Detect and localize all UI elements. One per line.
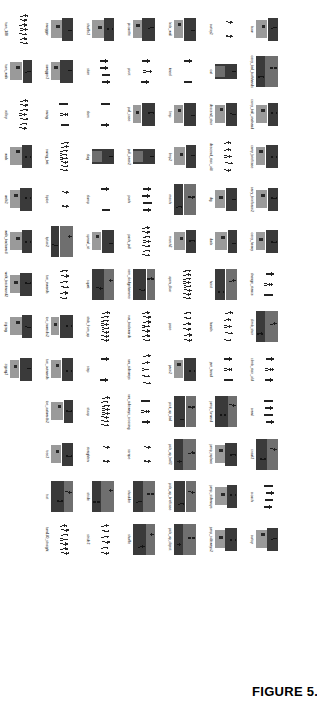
motion-cell[interactable]: swing xyxy=(44,93,85,136)
motion-cell[interactable]: volley xyxy=(3,93,44,136)
motion-cell[interactable]: duck xyxy=(208,221,249,264)
motion-cell[interactable]: curtsy xyxy=(249,518,290,561)
motion-cell[interactable]: crouch xyxy=(249,476,290,519)
motion-cell[interactable]: crawl xyxy=(249,391,290,434)
motion-cell[interactable]: slam xyxy=(85,93,126,136)
motion-cell[interactable]: dig xyxy=(208,178,249,221)
motion-cell[interactable]: tree2 xyxy=(44,433,85,476)
motion-cell[interactable]: zigzag2 xyxy=(3,348,44,391)
motion-cell[interactable]: carry_briefcase2 xyxy=(249,178,290,221)
motion-cell[interactable]: limp2 xyxy=(167,136,208,179)
motion-cell[interactable]: pick_up_briefcase xyxy=(167,476,208,519)
motion-cell[interactable]: hunch xyxy=(208,306,249,349)
motion-cell[interactable]: jump_sideways xyxy=(208,476,249,519)
motion-cell[interactable]: carry_heavy xyxy=(249,221,290,264)
motion-thumbnail-image xyxy=(51,438,75,471)
motion-thumbnail-image xyxy=(256,268,280,301)
motion-cell[interactable]: squat xyxy=(85,263,126,306)
motion-cell[interactable]: stride2 xyxy=(85,518,126,561)
motion-cell[interactable]: change_stance xyxy=(249,263,290,306)
motion-cell[interactable]: turn_walk xyxy=(3,51,44,94)
motion-cell[interactable]: hoist xyxy=(208,263,249,306)
motion-cell[interactable]: turn_180 xyxy=(3,8,44,51)
motion-cell[interactable]: push xyxy=(126,178,167,221)
motion-cell[interactable]: turn180_straight xyxy=(44,518,85,561)
motion-cell[interactable]: pivot xyxy=(126,51,167,94)
motion-cell[interactable]: tiptoe2 xyxy=(44,221,85,264)
motion-cell[interactable]: run_sideways xyxy=(126,348,167,391)
motion-cell[interactable]: pull_case2 xyxy=(126,136,167,179)
motion-cell[interactable]: descend_stair xyxy=(208,93,249,136)
motion-cell[interactable]: tiptoe xyxy=(44,178,85,221)
motion-cell[interactable]: limp xyxy=(167,93,208,136)
motion-cell[interactable]: straighten xyxy=(85,433,126,476)
motion-cell[interactable]: shuffle2 xyxy=(85,8,126,51)
motion-cell[interactable]: step xyxy=(85,348,126,391)
motion-cell[interactable]: climb_stair xyxy=(249,306,290,349)
motion-cell[interactable]: skim xyxy=(85,51,126,94)
motion-cell[interactable]: kick_wall xyxy=(167,8,208,51)
motion-thumbnail-image xyxy=(51,480,75,513)
motion-cell[interactable]: push_pull xyxy=(126,221,167,264)
motion-cell[interactable]: run_backwards xyxy=(126,306,167,349)
motion-cell[interactable]: sprawl_sit xyxy=(85,221,126,264)
motion-cell[interactable]: shoulder xyxy=(126,476,167,519)
motion-label: shuffle xyxy=(126,534,131,544)
motion-cell[interactable]: walk_backward xyxy=(3,221,44,264)
motion-cell[interactable]: cut xyxy=(208,51,249,94)
motion-cell[interactable]: stride xyxy=(85,476,126,519)
motion-cell[interactable]: carry_briefcase xyxy=(249,136,290,179)
motion-thumbnail-image xyxy=(256,523,280,556)
motion-cell[interactable]: march xyxy=(167,178,208,221)
motion-cell[interactable]: shuffle xyxy=(126,518,167,561)
motion-cell[interactable]: walk xyxy=(3,136,44,179)
motion-cell[interactable]: kneel xyxy=(167,51,208,94)
motion-cell[interactable]: stab_from_up xyxy=(85,306,126,349)
motion-cell[interactable]: scrape xyxy=(126,433,167,476)
motion-cell[interactable]: jam_hand xyxy=(208,348,249,391)
motion-label: hunch xyxy=(208,322,213,331)
motion-label: scrape xyxy=(126,449,131,459)
motion-cell[interactable]: march2 xyxy=(167,221,208,264)
motion-cell[interactable]: carry_ball_onehand xyxy=(249,93,290,136)
motion-cell[interactable]: ram_sledgehammer xyxy=(126,263,167,306)
motion-cell[interactable]: pick_up_ball2 xyxy=(167,433,208,476)
motion-cell[interactable]: run_sideways_crossing xyxy=(126,391,167,434)
motion-cell[interactable]: slump xyxy=(85,178,126,221)
motion-cell[interactable]: swagger2 xyxy=(44,51,85,94)
motion-cell[interactable]: slug xyxy=(85,136,126,179)
motion-cell[interactable]: walk2 xyxy=(3,178,44,221)
motion-thumbnail-image xyxy=(174,480,198,513)
motion-cell[interactable]: swing_bat xyxy=(44,136,85,179)
motion-label: dig xyxy=(208,197,213,202)
motion-thumbnail-image xyxy=(10,55,34,88)
motion-cell[interactable]: toe_inwards2 xyxy=(44,306,85,349)
motion-cell[interactable]: open_door xyxy=(167,263,208,306)
motion-label: pirouette xyxy=(126,23,131,36)
motion-cell[interactable]: stoop xyxy=(85,391,126,434)
motion-cell[interactable]: toe_outwards xyxy=(44,348,85,391)
motion-label: pick_up_ball2 xyxy=(167,444,172,465)
motion-thumbnail-image xyxy=(51,140,75,173)
motion-cell[interactable]: toe_inwards xyxy=(44,263,85,306)
motion-cell[interactable]: carry_ball_bothhands xyxy=(249,51,290,94)
motion-cell[interactable]: toe_outwards2 xyxy=(44,391,85,434)
motion-cell[interactable]: crawl2 xyxy=(249,433,290,476)
motion-cell[interactable]: walk_backward2 xyxy=(3,263,44,306)
motion-cell[interactable]: bow xyxy=(249,8,290,51)
motion-cell[interactable]: zigzag xyxy=(3,306,44,349)
motion-cell[interactable]: descend_stair_old xyxy=(208,136,249,179)
motion-cell[interactable]: pirouette xyxy=(126,8,167,51)
motion-cell[interactable]: pace2 xyxy=(167,348,208,391)
motion-cell[interactable]: trot xyxy=(44,476,85,519)
motion-cell[interactable]: pick_up_ball xyxy=(167,391,208,434)
motion-cell[interactable]: climb_stair_old xyxy=(249,348,290,391)
motion-cell[interactable]: pace xyxy=(167,306,208,349)
motion-cell[interactable]: jump_inplace xyxy=(208,433,249,476)
motion-cell[interactable]: curtsy2 xyxy=(208,8,249,51)
motion-cell[interactable]: jump_forward xyxy=(208,391,249,434)
motion-cell[interactable]: swagger xyxy=(44,8,85,51)
motion-cell[interactable]: pull_case xyxy=(126,93,167,136)
motion-cell[interactable]: jump_sideways2 xyxy=(208,518,249,561)
motion-cell[interactable]: pick_up_object xyxy=(167,518,208,561)
